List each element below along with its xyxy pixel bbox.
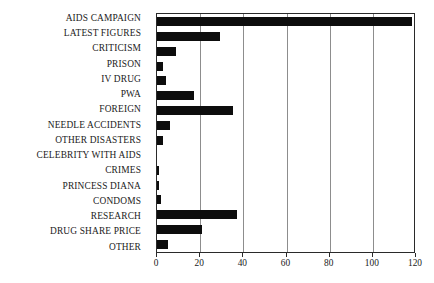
bar-row bbox=[157, 29, 414, 44]
x-tick-label: 40 bbox=[238, 258, 247, 268]
x-tick bbox=[156, 253, 157, 257]
bar-row bbox=[157, 14, 414, 29]
category-label: AIDS CAMPAIGN bbox=[0, 11, 146, 26]
x-tick bbox=[372, 253, 373, 257]
bar bbox=[157, 32, 220, 41]
category-label: LATEST FIGURES bbox=[0, 26, 146, 41]
bar-row bbox=[157, 88, 414, 103]
bar bbox=[157, 240, 168, 249]
bar-row bbox=[157, 118, 414, 133]
category-label: NEEDLE ACCIDENTS bbox=[0, 118, 146, 133]
category-label: CRITICISM bbox=[0, 42, 146, 57]
category-label: RESEARCH bbox=[0, 209, 146, 224]
x-tick-label: 0 bbox=[154, 258, 159, 268]
x-tick-label: 60 bbox=[281, 258, 290, 268]
bar bbox=[157, 136, 163, 145]
bar-row bbox=[157, 222, 414, 237]
x-tick bbox=[415, 253, 416, 257]
bar-row bbox=[157, 163, 414, 178]
bar-row bbox=[157, 133, 414, 148]
bar-row bbox=[157, 148, 414, 163]
category-label: OTHER DISASTERS bbox=[0, 133, 146, 148]
category-label: PRINCESS DIANA bbox=[0, 179, 146, 194]
bar bbox=[157, 121, 170, 130]
bar-row bbox=[157, 193, 414, 208]
bar bbox=[157, 225, 202, 234]
category-label: PWA bbox=[0, 87, 146, 102]
x-tick bbox=[242, 253, 243, 257]
x-tick-label: 120 bbox=[408, 258, 422, 268]
category-label: OTHER bbox=[0, 240, 146, 255]
bar bbox=[157, 47, 176, 56]
category-label: CELEBRITY WITH AIDS bbox=[0, 148, 146, 163]
bar bbox=[157, 91, 194, 100]
category-label: CRIMES bbox=[0, 164, 146, 179]
category-label: DRUG SHARE PRICE bbox=[0, 225, 146, 240]
x-tick-label: 100 bbox=[365, 258, 379, 268]
category-label: FOREIGN bbox=[0, 103, 146, 118]
bar bbox=[157, 195, 161, 204]
bar-row bbox=[157, 74, 414, 89]
plot-area bbox=[156, 13, 415, 253]
bar bbox=[157, 62, 163, 71]
category-label: IV DRUG bbox=[0, 72, 146, 87]
x-tick-label: 20 bbox=[194, 258, 203, 268]
x-tick bbox=[199, 253, 200, 257]
x-tick-label: 80 bbox=[324, 258, 333, 268]
x-tick bbox=[286, 253, 287, 257]
category-label: CONDOMS bbox=[0, 194, 146, 209]
bar bbox=[157, 181, 159, 190]
bar bbox=[157, 166, 159, 175]
bar-row bbox=[157, 237, 414, 252]
bar-row bbox=[157, 59, 414, 74]
bar-series bbox=[157, 14, 414, 252]
x-axis: 020406080100120 bbox=[156, 253, 415, 279]
bar bbox=[157, 106, 233, 115]
bar bbox=[157, 210, 237, 219]
bar-row bbox=[157, 207, 414, 222]
bar-row bbox=[157, 44, 414, 59]
category-label: PRISON bbox=[0, 57, 146, 72]
bar-row bbox=[157, 103, 414, 118]
bar-chart-figure: AIDS CAMPAIGNLATEST FIGURESCRITICISMPRIS… bbox=[0, 0, 434, 283]
bar bbox=[157, 17, 412, 26]
category-label-axis: AIDS CAMPAIGNLATEST FIGURESCRITICISMPRIS… bbox=[0, 11, 146, 255]
bar bbox=[157, 76, 166, 85]
x-tick bbox=[329, 253, 330, 257]
bar-row bbox=[157, 178, 414, 193]
